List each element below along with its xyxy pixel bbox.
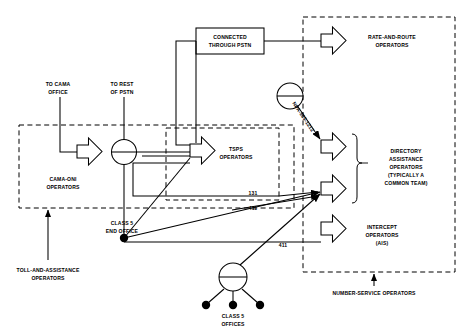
da-label-line3: OPERATORS <box>389 164 423 170</box>
tsps-label-line1: TSPS <box>229 146 243 152</box>
pstn-box-line2: THROUGH PSTN <box>209 42 252 48</box>
diagram-svg: CONNECTED THROUGH PSTN CAMA-ONI OPERATOR… <box>0 0 462 335</box>
cama-oni-label-line2: OPERATORS <box>46 184 80 190</box>
diagram-canvas: CONNECTED THROUGH PSTN CAMA-ONI OPERATOR… <box>0 0 462 335</box>
tsps-region <box>166 128 279 200</box>
intercept-label-line2: OPERATORS <box>365 232 399 238</box>
class-5-end-office-line2: END OFFICE <box>106 228 139 234</box>
intercept-operator-symbol <box>321 215 346 242</box>
class-5-office-dot-right <box>256 301 264 309</box>
class-5-office-dot-left <box>202 301 210 309</box>
npa-555-1212-label: NPA-555-1212 <box>291 101 315 133</box>
class-5-office-dot-center <box>229 301 237 309</box>
to-cama-office-line2: OFFICE <box>48 89 68 95</box>
code-131-label: 131 <box>249 190 258 196</box>
to-rest-of-pstn-line1: TO REST <box>110 81 134 87</box>
toll-and-assistance-line2: OPERATORS <box>31 275 65 281</box>
pstn-box-line1: CONNECTED <box>213 34 247 40</box>
class-5-offices-line2: OFFICES <box>221 321 245 327</box>
wire-class5-leg-right <box>242 289 258 303</box>
cama-oni-label-line1: CAMA-ONI <box>49 176 77 182</box>
rate-and-route-operator-symbol <box>321 27 346 54</box>
rate-route-label-line1: RATE-AND-ROUTE <box>368 34 416 40</box>
intercept-label-line1: INTERCEPT <box>367 224 398 230</box>
directory-assistance-brace <box>352 134 362 203</box>
tsps-operator-symbol <box>190 137 215 164</box>
directory-assistance-operator-1 <box>321 133 346 160</box>
class-5-end-office-line1: CLASS 5 <box>111 220 134 226</box>
da-label-line2: ASSISTANCE <box>389 156 423 162</box>
number-service-label: NUMBER-SERVICE OPERATORS <box>332 290 416 296</box>
da-label-line5: COMMON TEAM) <box>384 180 427 186</box>
class-5-offices-line1: CLASS 5 <box>222 313 245 319</box>
da-label-line4: (TYPICALLY A <box>388 172 424 178</box>
wire-class5-leg-left <box>208 289 224 303</box>
to-cama-office-line1: TO CAMA <box>46 81 71 87</box>
code-411-lower-label: 411 <box>279 242 288 248</box>
intercept-label-line3: (AIS) <box>376 240 389 246</box>
rate-route-label-line2: OPERATORS <box>375 42 409 48</box>
directory-assistance-operator-2 <box>321 175 346 202</box>
wire-endoffice-to-da-131 <box>124 192 320 238</box>
wire-tsps-riser <box>176 41 196 145</box>
wire-endoffice-to-tsps <box>124 158 190 238</box>
to-rest-of-pstn-line2: OF PSTN <box>110 89 133 95</box>
tsps-label-line2: OPERATORS <box>219 154 253 160</box>
da-label-line1: DIRECTORY <box>390 148 422 154</box>
cama-oni-operator-symbol <box>77 138 102 165</box>
toll-and-assistance-line1: TOLL-AND-ASSISTANCE <box>17 267 80 273</box>
